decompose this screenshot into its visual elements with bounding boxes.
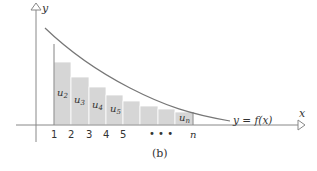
x-axis-arrow-icon	[298, 120, 305, 130]
tick-2: 2	[68, 129, 74, 140]
tick-ellipsis: • • •	[149, 128, 173, 139]
bar-5	[123, 101, 140, 125]
tick-4: 4	[103, 129, 109, 140]
y-axis-label: y	[41, 2, 49, 15]
curve-label: y = f(x)	[232, 114, 272, 126]
tick-3: 3	[86, 129, 92, 140]
bar-6	[140, 106, 158, 125]
tick-labels: 1 2 3 4 5 • • • n	[51, 128, 196, 140]
x-axis-label: x	[299, 107, 306, 120]
bar-7	[158, 109, 175, 125]
tick-n: n	[190, 129, 196, 140]
figure-caption: (b)	[152, 147, 168, 160]
series-diagram: y x y = f(x) 1 2 3 4 5 • • • n u2 u3 u4 …	[0, 0, 317, 171]
tick-5: 5	[120, 129, 126, 140]
y-axis-arrow-icon	[31, 3, 41, 10]
tick-1: 1	[51, 129, 57, 140]
